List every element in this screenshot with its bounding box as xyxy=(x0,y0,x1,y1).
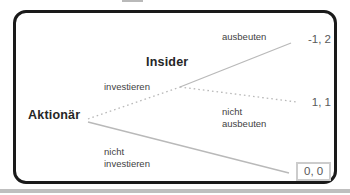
player-node-aktionaer: Aktionär xyxy=(28,108,80,122)
payoff-nicht-ausbeuten: 1, 1 xyxy=(293,96,331,108)
branch-line-nicht-ausbeuten xyxy=(180,87,297,102)
payoff-ausbeuten: -1, 2 xyxy=(293,33,331,45)
payoff-nicht-investieren-boxed: 0, 0 xyxy=(296,162,331,181)
branch-line-ausbeuten xyxy=(180,43,291,87)
cropped-edge-artifact-bottom xyxy=(0,189,350,193)
player-node-insider: Insider xyxy=(146,55,188,69)
branch-label-investieren: investieren xyxy=(104,81,150,93)
game-tree-figure: Aktionär Insider investieren nicht inves… xyxy=(0,0,350,195)
branch-label-nicht-ausbeuten: nicht ausbeuten xyxy=(222,106,266,129)
branch-label-nicht-investieren: nicht investieren xyxy=(104,146,150,169)
branch-label-ausbeuten: ausbeuten xyxy=(222,31,266,43)
